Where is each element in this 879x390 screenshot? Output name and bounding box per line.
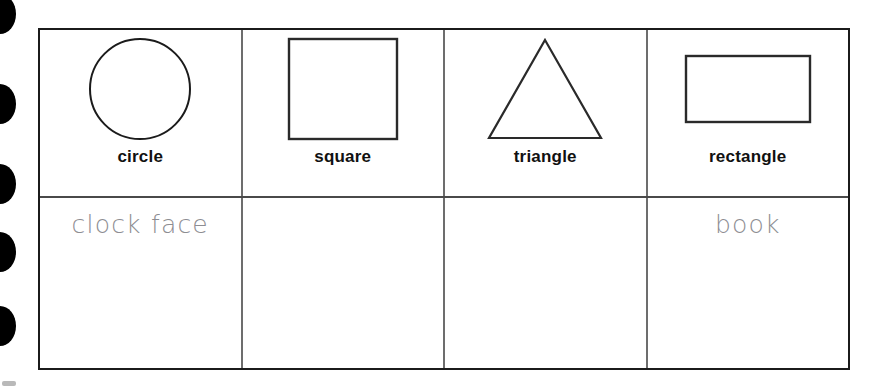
answer-text-circle[interactable]: clock face (72, 212, 209, 237)
spiral-binding-holes (0, 0, 26, 390)
binding-hole (0, 84, 16, 124)
shape-label-triangle: triangle (514, 148, 577, 165)
binding-hole (0, 232, 16, 272)
table-cell-triangle: triangle (445, 30, 648, 196)
table-cell-circle: circle (40, 30, 243, 196)
table-row-shapes: circle square triangle (40, 30, 848, 198)
triangle-shape-holder (445, 30, 646, 148)
binding-hole (0, 306, 16, 346)
scan-artifact (2, 381, 16, 386)
square-icon (287, 37, 399, 141)
answer-cell-square[interactable] (243, 198, 446, 368)
rectangle-icon (684, 54, 812, 124)
shapes-table: circle square triangle (38, 28, 850, 370)
square-shape-holder (243, 30, 444, 148)
binding-hole (0, 164, 16, 204)
answer-cell-triangle[interactable] (445, 198, 648, 368)
circle-icon (87, 36, 193, 142)
rectangle-shape-holder (648, 30, 849, 148)
table-row-answers: clock face book (40, 198, 848, 368)
answer-text-rectangle[interactable]: book (715, 212, 781, 237)
binding-hole (0, 0, 16, 34)
answer-cell-rectangle[interactable]: book (648, 198, 849, 368)
table-cell-rectangle: rectangle (648, 30, 849, 196)
worksheet-page: circle square triangle (0, 0, 879, 390)
circle-shape-holder (40, 30, 241, 148)
shape-label-circle: circle (117, 148, 163, 165)
table-cell-square: square (243, 30, 446, 196)
triangle-icon (486, 37, 604, 141)
shape-label-square: square (314, 148, 371, 165)
answer-cell-circle[interactable]: clock face (40, 198, 243, 368)
shape-label-rectangle: rectangle (709, 148, 786, 165)
